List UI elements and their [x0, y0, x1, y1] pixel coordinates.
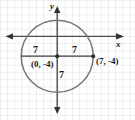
- radius-label-left: 7: [33, 45, 38, 55]
- circle-point-marker: [91, 54, 95, 58]
- center-point-marker: [55, 54, 59, 58]
- x-axis-label: x: [116, 40, 121, 49]
- radius-label-down: 7: [59, 70, 64, 80]
- y-axis-label: y: [50, 2, 54, 11]
- center-coordinate-label: (0, -4): [31, 60, 54, 69]
- circle-point-coordinate-label: (7, -4): [96, 57, 119, 66]
- radius-label-right: 7: [72, 45, 77, 55]
- circle-graph-figure: 7 7 7 (0, -4) (7, -4) x y: [0, 0, 135, 120]
